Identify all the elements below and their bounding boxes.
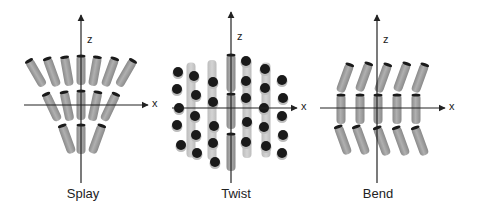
- molecule-end-dot: [277, 111, 287, 121]
- x-axis-label: x: [152, 97, 158, 109]
- molecule-end-dot: [260, 64, 270, 74]
- molecule-rod: [411, 62, 430, 94]
- molecule-rod: [412, 93, 421, 124]
- molecule-end-dot: [172, 84, 182, 94]
- x-axis-label: x: [449, 100, 455, 112]
- caption-splay: Splay: [67, 186, 100, 201]
- molecule-rod: [337, 93, 346, 124]
- panel-twist: [172, 12, 298, 183]
- molecule-end-dot: [241, 76, 251, 86]
- twist-rods: [172, 53, 289, 171]
- molecule-end-dot: [173, 67, 183, 77]
- molecule-rod: [355, 61, 374, 93]
- molecule-end-dot: [260, 83, 270, 93]
- z-axis-label: z: [237, 30, 243, 42]
- molecule-end-dot: [210, 157, 220, 167]
- molecule-end-dot: [191, 90, 201, 100]
- molecule-end-dot: [208, 138, 218, 148]
- molecule-end-dot: [191, 130, 201, 140]
- panel-splay: [24, 15, 148, 183]
- molecule-rod: [333, 124, 352, 156]
- molecule-end-dot: [241, 93, 251, 103]
- molecule-rod: [59, 90, 74, 122]
- caption-twist: Twist: [221, 186, 251, 201]
- molecule-rod: [356, 93, 365, 124]
- z-axis-label: z: [87, 33, 93, 45]
- molecule-end-dot: [241, 137, 251, 147]
- x-axis-label: x: [301, 100, 307, 112]
- molecule-rod: [391, 125, 410, 157]
- molecule-rod: [41, 91, 62, 123]
- molecule-end-dot: [208, 97, 218, 107]
- molecule-end-dot: [277, 148, 287, 158]
- molecule-rod: [393, 61, 412, 93]
- molecule-end-dot: [278, 93, 288, 103]
- molecule-rod: [87, 90, 102, 122]
- molecule-rod: [57, 123, 76, 155]
- molecule-end-dot: [190, 111, 200, 121]
- z-axis-label: z: [383, 33, 389, 45]
- molecule-rod: [88, 55, 102, 87]
- molecule-rod: [410, 125, 429, 157]
- molecule-end-dot: [261, 141, 271, 151]
- molecule-end-dot: [241, 56, 251, 66]
- molecule-rod: [100, 91, 121, 123]
- molecule-end-dot: [176, 140, 186, 150]
- molecule-rod: [351, 124, 370, 156]
- molecule-end-dot: [277, 75, 287, 85]
- molecule-end-dot: [209, 121, 219, 131]
- molecule-end-dot: [172, 120, 182, 130]
- bend-rods: [333, 61, 429, 157]
- molecule-end-dot: [278, 130, 288, 140]
- molecule-end-dot: [259, 122, 269, 132]
- molecule-end-dot: [192, 148, 202, 158]
- molecule-end-dot: [208, 77, 218, 87]
- molecule-rod: [336, 62, 355, 94]
- molecule-rod: [393, 93, 402, 124]
- molecule-rod: [88, 123, 107, 155]
- molecule-end-dot: [189, 71, 199, 81]
- molecule-rod: [374, 93, 383, 124]
- molecule-end-dot: [242, 117, 252, 127]
- molecule-rod: [372, 125, 391, 157]
- molecule-rod: [60, 55, 74, 87]
- caption-bend: Bend: [363, 186, 393, 201]
